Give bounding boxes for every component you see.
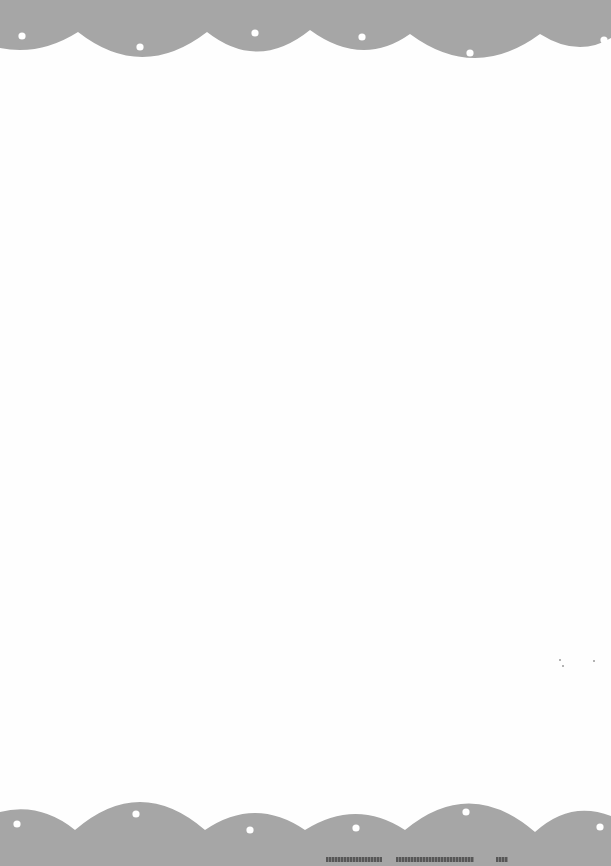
page [0, 0, 611, 866]
page-body [0, 70, 611, 790]
illegible-text-block [326, 857, 382, 862]
bottom-scalloped-border-shape [0, 780, 611, 866]
illegible-text-block [496, 857, 508, 862]
illegible-text-block [396, 857, 474, 862]
scan-specks [555, 655, 605, 675]
top-scalloped-border [0, 0, 611, 80]
